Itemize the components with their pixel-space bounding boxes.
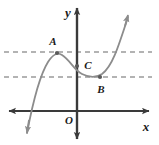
curve-tail-left-arrow: [27, 120, 29, 133]
x-axis-label: x: [142, 119, 150, 134]
point-marker-b: [98, 75, 102, 79]
point-marker-a: [55, 51, 59, 55]
origin-label: O: [65, 114, 73, 126]
graph-figure: A C B y x O: [0, 0, 159, 145]
y-axis-label: y: [63, 5, 71, 20]
cubic-curve-group: [0, 0, 128, 133]
point-marker-c: [75, 64, 79, 68]
point-label-c: C: [84, 59, 92, 71]
point-label-a: A: [48, 35, 56, 47]
point-label-b: B: [96, 83, 104, 95]
coordinate-plane-svg: A C B y x O: [0, 0, 159, 145]
